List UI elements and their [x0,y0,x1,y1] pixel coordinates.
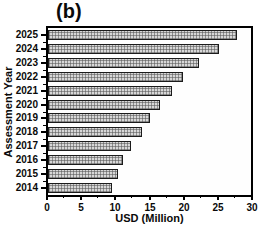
y-axis-title: Assessment Year [0,26,16,197]
y-major-tick [41,90,46,92]
bar-2015 [48,169,118,179]
x-major-tick [80,195,82,200]
bar-2017 [48,141,131,151]
x-major-tick [217,195,219,200]
x-minor-tick [131,195,132,198]
x-axis-title: USD (Million) [46,212,253,224]
x-minor-tick [63,195,64,198]
bar-chart-figure: (b) 202520242023202220212020201920182017… [0,0,265,231]
bar-2023 [48,58,199,68]
x-major-tick [251,195,253,200]
y-axis-title-text: Assessment Year [2,66,14,157]
x-minor-tick [200,195,201,198]
bar-2024 [48,44,219,54]
bar-2019 [48,113,150,123]
y-major-tick [41,34,46,36]
x-major-tick [46,195,48,200]
y-major-tick [41,159,46,161]
bar-2022 [48,72,183,82]
y-major-tick [41,76,46,78]
y-minor-tick [43,56,46,57]
bar-2016 [48,155,123,165]
y-major-tick [41,187,46,189]
y-major-tick [41,104,46,106]
x-major-tick [183,195,185,200]
y-minor-tick [43,153,46,154]
y-minor-tick [43,42,46,43]
x-major-tick [114,195,116,200]
plot-area [46,26,253,197]
y-major-tick [41,62,46,64]
bar-2021 [48,86,172,96]
y-minor-tick [43,112,46,113]
x-minor-tick [97,195,98,198]
x-major-tick [149,195,151,200]
x-minor-tick [166,195,167,198]
bar-2025 [48,30,237,40]
y-minor-tick [43,181,46,182]
y-minor-tick [43,167,46,168]
y-minor-tick [43,98,46,99]
bar-2020 [48,100,160,110]
y-major-tick [41,48,46,50]
y-minor-tick [43,70,46,71]
panel-label: (b) [56,0,82,23]
y-major-tick [41,117,46,119]
y-minor-tick [43,125,46,126]
y-major-tick [41,173,46,175]
y-major-tick [41,145,46,147]
y-minor-tick [43,84,46,85]
y-major-tick [41,131,46,133]
bar-2014 [48,183,112,193]
x-minor-tick [234,195,235,198]
bar-2018 [48,127,142,137]
y-minor-tick [43,139,46,140]
